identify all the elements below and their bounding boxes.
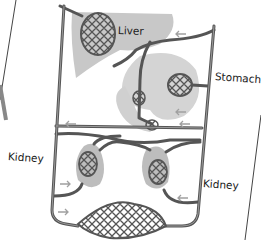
circulation-diagram: Liver Stomach Kidney Kidney [0,0,261,240]
arrow-left-icon [180,121,190,127]
page-edge-right [245,115,261,240]
page-edge-left [0,0,16,100]
label-kidney-right: Kidney [203,177,240,191]
arrow-right-icon [60,181,70,187]
arrow-left-icon [178,195,188,201]
label-liver: Liver [118,24,144,37]
stomach-organ [116,53,199,132]
arrow-right-icon [58,209,68,215]
label-kidney-left: Kidney [8,150,45,164]
capillary-network [78,202,166,238]
arrow-left-icon [176,31,186,37]
